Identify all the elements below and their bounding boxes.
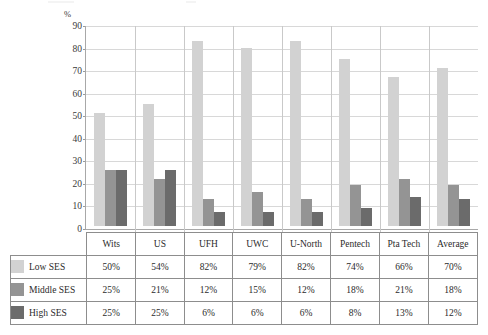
bar-group-ufh <box>184 0 233 229</box>
y-axis-tick-40: 40 <box>56 134 82 144</box>
table-header-wits: Wits <box>87 233 136 256</box>
legend-cell-high-ses: High SES <box>11 301 87 324</box>
table-cell-low-ses-wits: 50% <box>87 255 136 278</box>
table-header-ufh: UFH <box>184 233 233 256</box>
group-separator <box>331 26 332 232</box>
table-row: Low SES50%54%82%79%82%74%66%70% <box>11 255 478 278</box>
bar-group-average <box>429 0 478 229</box>
middle-ses-swatch <box>11 283 24 296</box>
y-axis-tick-60: 60 <box>56 89 82 99</box>
bar-low-ses-average <box>437 68 448 226</box>
y-axis-tick-10: 10 <box>56 201 82 211</box>
table-cell-low-ses-average: 70% <box>428 255 477 278</box>
bar-high-ses-uwc <box>263 212 274 226</box>
chart-plot-region: % 9080706050403020100 <box>0 0 488 232</box>
table-cell-middle-ses-average: 18% <box>428 278 477 301</box>
bar-middle-ses-pentech <box>350 185 361 226</box>
table-cell-high-ses-uwc: 6% <box>233 301 282 324</box>
table-cell-low-ses-uwc: 79% <box>233 255 282 278</box>
bar-group-pta-tech <box>380 0 429 229</box>
bar-group-pentech <box>331 0 380 229</box>
legend-cell-middle-ses: Middle SES <box>11 278 87 301</box>
table-cell-middle-ses-u-north: 12% <box>282 278 331 301</box>
table-cell-middle-ses-wits: 25% <box>87 278 136 301</box>
low-ses-swatch <box>11 260 24 273</box>
figure-bar-chart-with-data-table: % 9080706050403020100 WitsUSUFHUWCU-Nort… <box>0 0 488 335</box>
bar-high-ses-ufh <box>214 212 225 226</box>
group-separator <box>233 26 234 232</box>
bar-group-u-north <box>282 0 331 229</box>
table-header-pta-tech: Pta Tech <box>380 233 429 256</box>
bar-middle-ses-pta-tech <box>399 179 410 226</box>
high-ses-swatch <box>11 306 24 319</box>
bar-middle-ses-us <box>154 179 165 226</box>
table-header-row: WitsUSUFHUWCU-NorthPentechPta TechAverag… <box>11 233 478 256</box>
table-cell-low-ses-pentech: 74% <box>330 255 379 278</box>
group-separator <box>282 26 283 232</box>
table-header-average: Average <box>428 233 477 256</box>
bar-low-ses-pta-tech <box>388 77 399 226</box>
bar-middle-ses-ufh <box>203 199 214 226</box>
table-body: Low SES50%54%82%79%82%74%66%70%Middle SE… <box>11 255 478 324</box>
group-separator <box>380 26 381 232</box>
table-cell-high-ses-us: 25% <box>136 301 185 324</box>
table-cell-high-ses-average: 12% <box>428 301 477 324</box>
data-table: WitsUSUFHUWCU-NorthPentechPta TechAverag… <box>10 232 478 325</box>
table-cell-high-ses-u-north: 6% <box>282 301 331 324</box>
table-header-us: US <box>136 233 185 256</box>
bar-group-us <box>135 0 184 229</box>
table-cell-low-ses-us: 54% <box>136 255 185 278</box>
group-separator <box>184 26 185 232</box>
y-axis-tick-80: 80 <box>56 44 82 54</box>
y-axis-tick-90: 90 <box>56 21 82 31</box>
table-header-pentech: Pentech <box>330 233 379 256</box>
bars-area <box>86 0 478 232</box>
table-cell-high-ses-ufh: 6% <box>184 301 233 324</box>
table-cell-middle-ses-ufh: 12% <box>184 278 233 301</box>
bar-low-ses-uwc <box>241 48 252 226</box>
bar-low-ses-pentech <box>339 59 350 226</box>
table-cell-middle-ses-pta-tech: 21% <box>380 278 429 301</box>
legend-label: Low SES <box>29 262 65 272</box>
y-axis-tick-50: 50 <box>56 111 82 121</box>
table-cell-high-ses-pta-tech: 13% <box>380 301 429 324</box>
table-cell-low-ses-pta-tech: 66% <box>380 255 429 278</box>
table-header-u-north: U-North <box>282 233 331 256</box>
bar-low-ses-u-north <box>290 41 301 226</box>
table-cell-high-ses-pentech: 8% <box>330 301 379 324</box>
table-cell-low-ses-u-north: 82% <box>282 255 331 278</box>
table-cell-low-ses-ufh: 82% <box>184 255 233 278</box>
table-row: High SES25%25%6%6%6%8%13%12% <box>11 301 478 324</box>
bar-group-wits <box>86 0 135 229</box>
table-cell-middle-ses-uwc: 15% <box>233 278 282 301</box>
bar-middle-ses-wits <box>105 170 116 226</box>
legend-label: Middle SES <box>29 285 75 295</box>
bar-high-ses-average <box>459 199 470 226</box>
bar-low-ses-ufh <box>192 41 203 226</box>
table-cell-middle-ses-pentech: 18% <box>330 278 379 301</box>
bar-high-ses-pta-tech <box>410 197 421 226</box>
y-axis-tick-20: 20 <box>56 179 82 189</box>
bar-high-ses-pentech <box>361 208 372 226</box>
y-axis-tick-labels: 9080706050403020100 <box>56 0 82 232</box>
bar-middle-ses-uwc <box>252 192 263 226</box>
legend-label: High SES <box>29 308 67 318</box>
bar-middle-ses-average <box>448 185 459 226</box>
table-row: Middle SES25%21%12%15%12%18%21%18% <box>11 278 478 301</box>
bar-high-ses-u-north <box>312 212 323 226</box>
legend-cell-low-ses: Low SES <box>11 255 87 278</box>
y-axis-tick-70: 70 <box>56 66 82 76</box>
table-header-uwc: UWC <box>233 233 282 256</box>
bar-low-ses-wits <box>94 113 105 226</box>
group-separator <box>135 26 136 232</box>
y-axis-tick-30: 30 <box>56 156 82 166</box>
bar-group-uwc <box>233 0 282 229</box>
bar-high-ses-wits <box>116 170 127 226</box>
table-cell-high-ses-wits: 25% <box>87 301 136 324</box>
table-corner-cell <box>11 233 87 256</box>
bar-low-ses-us <box>143 104 154 226</box>
group-separator <box>429 26 430 232</box>
bar-middle-ses-u-north <box>301 199 312 226</box>
table-cell-middle-ses-us: 21% <box>136 278 185 301</box>
bar-high-ses-us <box>165 170 176 226</box>
